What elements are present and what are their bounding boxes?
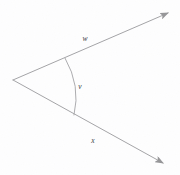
angle-label-v: v — [78, 83, 81, 91]
ray-label-w: w — [82, 35, 87, 43]
ray-label-x: x — [91, 137, 94, 145]
diagram-canvas — [0, 0, 180, 175]
angle-diagram: w v x — [0, 0, 180, 175]
